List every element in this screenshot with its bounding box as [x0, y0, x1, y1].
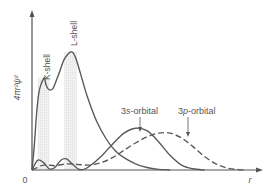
x-axis-arrow [256, 168, 263, 173]
y-axis-arrow [30, 10, 35, 17]
shell-band-l-shell [64, 52, 77, 170]
k-shell-label: K-shell [42, 54, 52, 80]
3p-arrow-head [186, 132, 190, 137]
3p-orbital-label: 3p-orbital [178, 106, 216, 116]
radial-distribution-chart: 4πr²ψ² r 0 K-shell L-shell 3s-orbital 3p… [0, 0, 275, 191]
series-line-3p-orbital [32, 133, 246, 170]
3s-arrow-head [138, 127, 142, 132]
l-shell-label: L-shell [69, 21, 79, 46]
3s-suffix: -orbital [131, 106, 159, 116]
3p-suffix: -orbital [188, 106, 216, 116]
3s-orbital-label: 3s-orbital [121, 106, 158, 116]
series-line-3s-orbital [32, 128, 205, 170]
origin-label: 0 [22, 175, 27, 185]
y-axis-label: 4πr²ψ² [12, 74, 22, 100]
x-axis-label: r [249, 175, 253, 185]
